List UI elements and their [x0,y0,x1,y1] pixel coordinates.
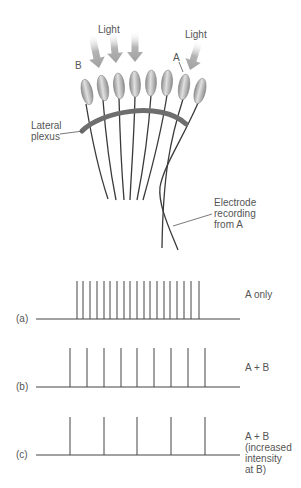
panel-a-label: (a) [16,313,28,324]
panel-c-condition-line-3: intensity [245,453,292,464]
lateral-inhibition-figure [0,0,301,488]
receptor-b-label: B [75,60,82,71]
ommatidium [160,70,173,97]
ommatidium [192,77,209,105]
light-arrow-icon [105,32,124,64]
ommatidium [79,78,95,106]
panel-c-condition: A + B (increased intensity at B) [245,431,292,475]
panel-b-condition: A + B [245,362,269,373]
light-label-right: Light [185,29,207,40]
panel-c-condition-line-2: (increased [245,442,292,453]
ommatidium [129,71,141,97]
electrode-label: Electrode recording from A [214,197,256,230]
lateral-plexus-line-1: Lateral [31,120,62,131]
electrode-leader [173,214,212,226]
light-label-left: Light [98,24,120,35]
lateral-plexus-label: Lateral plexus [31,120,62,142]
electrode-line-2: recording [214,208,256,219]
panel-c-condition-line-1: A + B [245,431,292,442]
ommatidium [112,73,125,100]
light-arrow-icon [182,40,206,73]
panel-b-label: (b) [16,381,28,392]
ommatidia-row [79,70,208,106]
recording-trace-b [36,348,240,387]
ommatidium [96,74,111,101]
receptor-a-leader [179,62,183,72]
panel-a-condition-line-1: A only [245,289,272,300]
ommatidium [145,70,157,96]
panel-c-condition-line-4: at B) [245,464,292,475]
panel-c-label: (c) [16,449,28,460]
recording-trace-a [36,281,240,319]
lateral-plexus-line-2: plexus [31,131,62,142]
receptor-a-label: A [173,52,180,63]
electrode-line-3: from A [214,219,256,230]
ommatidium [177,73,192,100]
electrode-line-1: Electrode [214,197,256,208]
lateral-plexus-leader [60,131,83,134]
panel-a-condition: A only [245,289,272,300]
light-arrow-icon [84,33,107,69]
panel-b-condition-line-1: A + B [245,362,269,373]
spike-recordings [36,281,240,455]
recording-trace-c [36,417,240,455]
light-arrow-icon [127,32,143,62]
